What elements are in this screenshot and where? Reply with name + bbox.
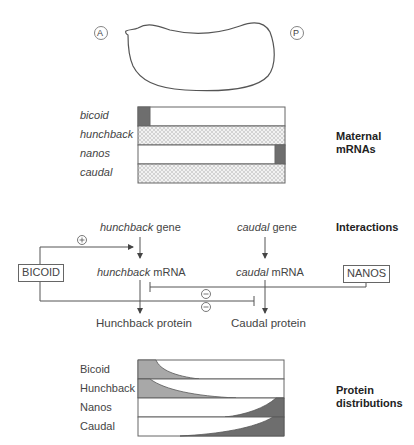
hunchback-mrna-label: hunchback mRNA [97, 266, 186, 279]
mrna-label-nanos: nanos [80, 147, 110, 160]
nanos-box: NANOS [343, 265, 390, 283]
embryo-outline [126, 23, 275, 91]
section-title-mrnas: mRNAs [336, 143, 376, 156]
maternal-mrna-chart [138, 107, 285, 183]
section-title-protein: Protein [336, 384, 374, 397]
anterior-label: A [97, 27, 103, 40]
repression-minus-icon [202, 290, 211, 299]
hunchback-protein-label: Hunchback protein [96, 317, 192, 330]
protein-label-nanos: Nanos [80, 401, 112, 414]
protein-label-hunchback: Hunchback [80, 382, 135, 395]
repression-minus-icon [202, 303, 211, 312]
interaction-lines [40, 237, 366, 313]
hunchback-gene-label: hunchback gene [100, 221, 181, 234]
protein-label-caudal: Caudal [80, 420, 115, 433]
bicoid-box: BICOID [18, 264, 64, 282]
mrna-label-bicoid: bicoid [80, 109, 109, 122]
section-title-maternal: Maternal [336, 130, 381, 143]
activation-plus-icon [78, 236, 87, 245]
caudal-gene-label: caudal gene [237, 221, 297, 234]
mrna-label-hunchback: hunchback [80, 128, 133, 141]
caudal-protein-label: Caudal protein [231, 317, 306, 330]
posterior-label: P [293, 27, 299, 40]
section-title-interactions: Interactions [336, 221, 398, 234]
mrna-label-caudal: caudal [80, 166, 112, 179]
section-title-distributions: distributions [336, 397, 403, 410]
caudal-mrna-label: caudal mRNA [236, 266, 304, 279]
protein-distribution-chart [138, 360, 284, 436]
protein-label-bicoid: Bicoid [80, 363, 110, 376]
